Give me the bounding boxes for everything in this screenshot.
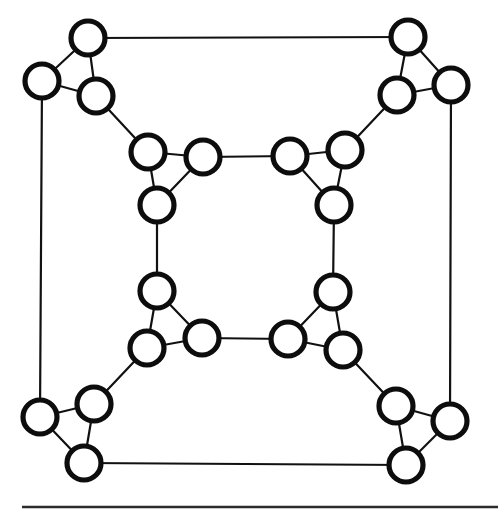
graph-node bbox=[71, 21, 105, 55]
graph-edge bbox=[40, 81, 42, 417]
graph-node bbox=[77, 387, 111, 421]
graph-node bbox=[434, 68, 468, 102]
graph-edge bbox=[84, 463, 406, 465]
graph-node bbox=[79, 79, 113, 113]
graph-node bbox=[130, 331, 164, 365]
graph-node bbox=[391, 20, 425, 54]
graph-node bbox=[379, 389, 413, 423]
graph-node bbox=[389, 448, 423, 482]
graph-node bbox=[326, 333, 360, 367]
graph-node bbox=[186, 140, 220, 174]
graph-node bbox=[140, 274, 174, 308]
graph-node bbox=[67, 446, 101, 480]
graph-node bbox=[273, 139, 307, 173]
graph-node bbox=[328, 133, 362, 167]
graph-node bbox=[23, 400, 57, 434]
graph-diagram bbox=[0, 0, 498, 511]
graph-edge bbox=[88, 37, 408, 38]
node-layer bbox=[23, 20, 468, 482]
graph-node bbox=[433, 404, 467, 438]
graph-node bbox=[316, 275, 350, 309]
graph-edge bbox=[450, 85, 451, 421]
graph-node bbox=[380, 78, 414, 112]
figure-container bbox=[0, 0, 498, 511]
graph-node bbox=[271, 322, 305, 356]
graph-node bbox=[25, 64, 59, 98]
graph-node bbox=[185, 321, 219, 355]
graph-node bbox=[317, 188, 351, 222]
graph-node bbox=[140, 188, 174, 222]
graph-node bbox=[131, 135, 165, 169]
